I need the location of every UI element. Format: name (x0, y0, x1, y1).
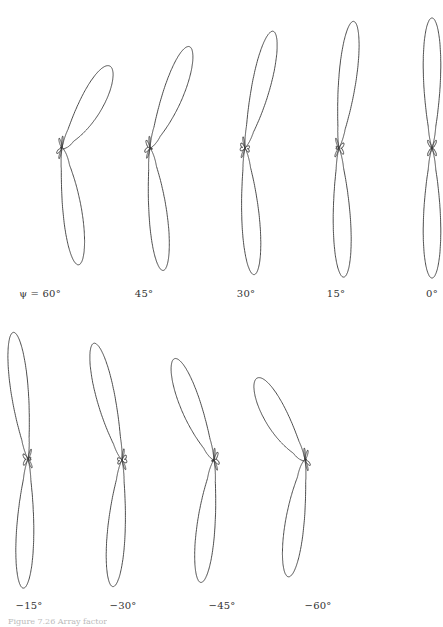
pattern-curve (8, 332, 34, 588)
pattern-label: 0° (426, 288, 438, 299)
polar-pattern (240, 31, 277, 274)
polar-pattern (333, 21, 359, 277)
polar-pattern (171, 359, 219, 583)
pattern-curve (57, 66, 114, 265)
polar-pattern (8, 332, 34, 588)
pattern-curve (423, 18, 441, 278)
pattern-label: 15° (327, 288, 345, 299)
pattern-label: ψ = 60° (19, 288, 61, 299)
pattern-curve (171, 359, 219, 583)
pattern-curve (254, 378, 311, 577)
polar-pattern (145, 47, 193, 271)
pattern-label: 30° (237, 288, 255, 299)
pattern-curve (240, 31, 277, 274)
pattern-label: −15° (16, 600, 43, 611)
pattern-label: −30° (110, 600, 137, 611)
pattern-curve (333, 21, 359, 277)
pattern-label: −45° (209, 600, 236, 611)
figure-caption: Figure 7.26 Array factor (8, 617, 107, 627)
pattern-curve (145, 47, 193, 271)
pattern-label: 45° (135, 288, 153, 299)
polar-pattern (254, 378, 311, 577)
pattern-curve (90, 343, 127, 586)
radiation-pattern-figure (0, 0, 443, 627)
polar-pattern (57, 66, 114, 265)
polar-pattern (423, 18, 441, 278)
pattern-label: −60° (305, 600, 332, 611)
polar-pattern (90, 343, 127, 586)
